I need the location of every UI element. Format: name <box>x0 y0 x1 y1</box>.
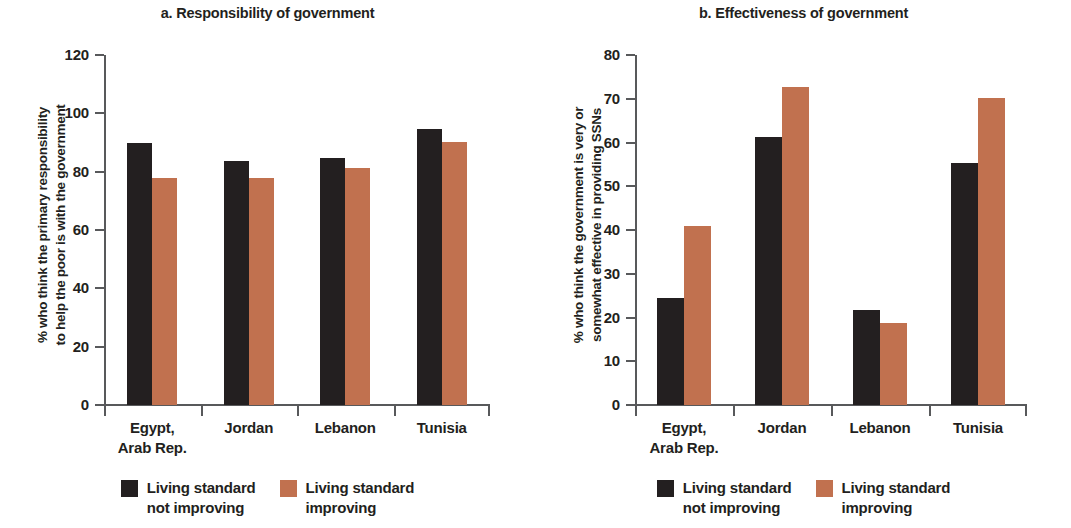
legend-label-not-improving-line2: not improving <box>147 498 256 518</box>
legend-swatch-not-improving-icon <box>121 480 138 497</box>
panel-b-legend: Living standard not improving Living sta… <box>536 478 1071 517</box>
bar-group <box>831 55 929 405</box>
y-axis-tick: 0 <box>626 404 635 406</box>
y-axis-tick-label: 80 <box>604 46 620 63</box>
x-axis-label: Lebanon <box>297 418 394 438</box>
bar-not-improving <box>224 161 249 405</box>
y-axis-tick-label: 0 <box>81 396 89 413</box>
panel-a-y-axis-label-line2: to help the poor is with the government <box>52 104 70 345</box>
legend-label-not-improving-line1: Living standard <box>147 479 256 496</box>
y-axis-tick: 50 <box>626 185 635 187</box>
bar-group <box>394 55 491 405</box>
figure-two-panel-bar-charts: a. Responsibility of government % who th… <box>0 0 1071 528</box>
legend-swatch-not-improving-icon <box>657 480 674 497</box>
x-axis-label: Tunisia <box>929 418 1027 438</box>
x-axis-label: Lebanon <box>831 418 929 438</box>
y-axis-tick-label: 30 <box>604 265 620 282</box>
y-axis-tick: 80 <box>95 171 104 173</box>
panel-a-bar-groups <box>104 55 490 405</box>
x-axis-tick <box>104 405 106 416</box>
y-axis-tick-label: 10 <box>604 352 620 369</box>
x-axis-label: Jordan <box>733 418 831 438</box>
y-axis-tick: 60 <box>626 142 635 144</box>
panel-a-title: a. Responsibility of government <box>0 5 535 21</box>
y-axis-tick-label: 20 <box>73 338 89 355</box>
panel-a-y-axis-label-line1: % who think the primary responsibility <box>35 107 50 343</box>
x-axis-tick <box>733 405 735 416</box>
legend-label-not-improving: Living standard not improving <box>683 478 792 517</box>
y-axis-tick: 80 <box>626 54 635 56</box>
y-axis-tick: 0 <box>95 404 104 406</box>
panel-a-responsibility-of-government: a. Responsibility of government % who th… <box>0 0 535 528</box>
x-axis-label-line1: Tunisia <box>953 419 1003 436</box>
legend-item-not-improving: Living standard not improving <box>657 478 792 517</box>
legend-label-not-improving-line2: not improving <box>683 498 792 518</box>
panel-b-y-axis-label-line1: % who think the government is very or <box>571 107 586 343</box>
bar-group <box>733 55 831 405</box>
panel-b-y-axis-label: % who think the government is very or so… <box>536 40 640 410</box>
y-axis-tick-label: 100 <box>65 105 89 122</box>
y-axis-tick: 20 <box>95 346 104 348</box>
x-axis-label: Jordan <box>201 418 298 438</box>
x-axis-tick <box>1025 405 1027 416</box>
y-axis-tick-label: 0 <box>612 396 620 413</box>
x-axis-label: Egypt,Arab Rep. <box>104 418 201 459</box>
panel-b-x-axis-labels: Egypt,Arab Rep.JordanLebanonTunisia <box>635 418 1027 478</box>
x-axis-label-line1: Egypt, <box>130 419 175 436</box>
bar-group <box>635 55 733 405</box>
legend-label-not-improving-line1: Living standard <box>683 479 792 496</box>
y-axis-tick: 60 <box>95 229 104 231</box>
y-axis-tick: 40 <box>95 287 104 289</box>
bar-not-improving <box>657 298 684 405</box>
bar-improving <box>442 142 467 405</box>
bar-improving <box>782 87 809 405</box>
y-axis-tick: 30 <box>626 273 635 275</box>
bar-group <box>104 55 201 405</box>
legend-swatch-improving-icon <box>280 480 297 497</box>
x-axis-tick <box>635 405 637 416</box>
x-axis-label-line1: Tunisia <box>417 419 467 436</box>
y-axis-tick-label: 50 <box>604 177 620 194</box>
x-axis-tick <box>297 405 299 416</box>
y-axis-tick: 10 <box>626 360 635 362</box>
x-axis-tick <box>929 405 931 416</box>
y-axis-tick-label: 40 <box>73 280 89 297</box>
legend-label-improving: Living standard improving <box>306 478 415 517</box>
x-axis-label-line1: Lebanon <box>849 419 910 436</box>
panel-b-effectiveness-of-government: b. Effectiveness of government % who thi… <box>536 0 1071 528</box>
bar-improving <box>345 168 370 405</box>
panel-a-legend: Living standard not improving Living sta… <box>0 478 535 517</box>
bar-improving <box>978 98 1005 405</box>
x-axis-label-line1: Jordan <box>758 419 807 436</box>
panel-a-plot-area: 020406080100120 <box>104 55 490 405</box>
x-axis-label: Egypt,Arab Rep. <box>635 418 733 459</box>
y-axis-tick: 70 <box>626 98 635 100</box>
y-axis-tick-label: 80 <box>73 163 89 180</box>
x-axis-label-line1: Egypt, <box>662 419 707 436</box>
bar-not-improving <box>951 163 978 405</box>
legend-label-improving: Living standard improving <box>842 478 951 517</box>
x-axis-label-line1: Lebanon <box>315 419 376 436</box>
x-axis-tick <box>201 405 203 416</box>
panel-b-bar-groups <box>635 55 1027 405</box>
bar-group <box>929 55 1027 405</box>
y-axis-tick-label: 40 <box>604 221 620 238</box>
y-axis-tick-label: 60 <box>604 134 620 151</box>
legend-label-improving-line2: improving <box>306 498 415 518</box>
bar-not-improving <box>853 310 880 405</box>
y-axis-tick: 120 <box>95 54 104 56</box>
x-axis-tick <box>831 405 833 416</box>
legend-label-improving-line2: improving <box>842 498 951 518</box>
x-axis-label-line2: Arab Rep. <box>104 438 201 458</box>
panel-a-x-axis-labels: Egypt,Arab Rep.JordanLebanonTunisia <box>104 418 490 478</box>
bar-improving <box>880 323 907 405</box>
y-axis-tick: 100 <box>95 112 104 114</box>
bar-improving <box>249 178 274 406</box>
y-axis-tick: 40 <box>626 229 635 231</box>
legend-swatch-improving-icon <box>816 480 833 497</box>
x-axis-label-line1: Jordan <box>224 419 273 436</box>
x-axis-tick <box>488 405 490 416</box>
x-axis-label-line2: Arab Rep. <box>635 438 733 458</box>
x-axis-label: Tunisia <box>394 418 491 438</box>
legend-label-improving-line1: Living standard <box>842 479 951 496</box>
